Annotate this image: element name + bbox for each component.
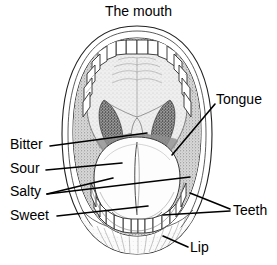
mouth-illustration	[0, 0, 277, 265]
mouth-diagram-figure: The mouth	[0, 0, 277, 265]
label-bitter: Bitter	[10, 137, 43, 151]
label-sweet: Sweet	[10, 208, 49, 222]
label-sour: Sour	[10, 161, 40, 175]
label-salty: Salty	[10, 184, 41, 198]
label-teeth: Teeth	[233, 203, 267, 217]
oral-cavity-group	[73, 38, 201, 236]
label-lip: Lip	[190, 240, 209, 254]
label-tongue: Tongue	[216, 92, 262, 106]
